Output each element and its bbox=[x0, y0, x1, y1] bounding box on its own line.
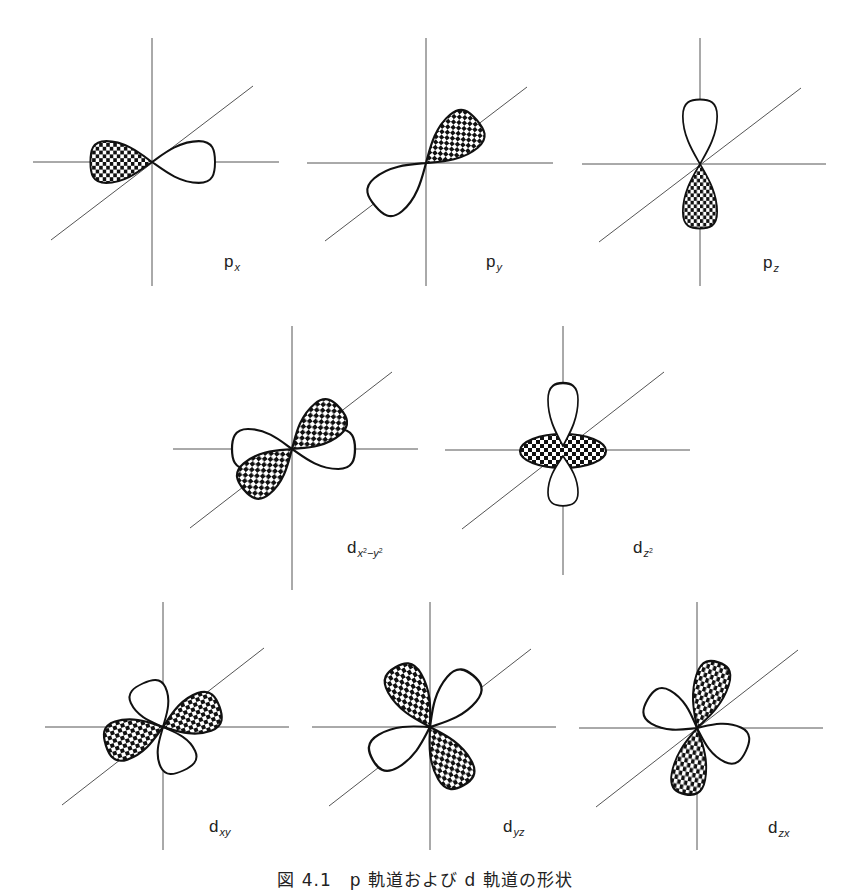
orbital-dyz bbox=[363, 658, 487, 795]
label-dzx: dzx bbox=[768, 818, 789, 838]
label-dx2y2: dx2−y2 bbox=[347, 538, 383, 558]
label-py: py bbox=[486, 252, 502, 272]
label-pz: pz bbox=[763, 253, 779, 273]
panel-pz bbox=[582, 38, 826, 286]
orbital-px bbox=[90, 141, 215, 183]
label-dyz: dyz bbox=[503, 817, 524, 837]
panel-dzx bbox=[579, 602, 823, 850]
orbital-dxy bbox=[100, 675, 226, 778]
figure-caption: 図 4.1 p 軌道および d 軌道の形状 bbox=[0, 866, 850, 891]
label-dxy: dxy bbox=[209, 817, 230, 837]
orbital-dx2y2 bbox=[231, 393, 355, 505]
label-dz2: dz2 bbox=[633, 538, 653, 558]
label-px: px bbox=[224, 252, 240, 272]
orbital-dzx bbox=[638, 657, 754, 797]
orbital-dz2 bbox=[520, 383, 606, 506]
